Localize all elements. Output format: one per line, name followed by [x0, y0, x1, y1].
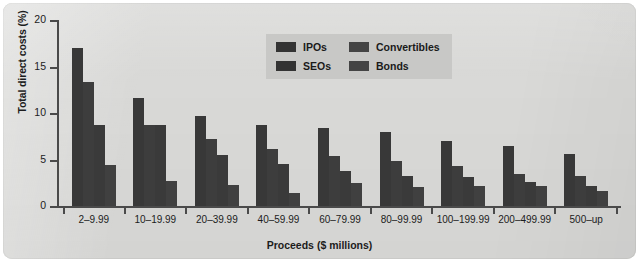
bar-group: 100–199.99 [441, 141, 485, 206]
bar-group: 500–up [564, 154, 608, 206]
bar [318, 128, 329, 206]
bar [217, 155, 228, 206]
x-tick-label: 2–9.99 [78, 214, 109, 225]
x-tick [431, 208, 433, 214]
bar [536, 186, 547, 206]
y-tick-label-20: 20 [34, 13, 46, 25]
legend-item-seos: SEOs [276, 60, 331, 72]
legend-swatch-convertibles [349, 42, 369, 52]
bar [474, 186, 485, 206]
x-tick [124, 208, 126, 214]
bar [83, 82, 94, 206]
x-tick [616, 208, 618, 214]
x-tick-label: 100–199.99 [437, 214, 490, 225]
bar [575, 176, 586, 206]
x-axis-title: Proceeds ($ millions) [0, 239, 639, 251]
y-tick-label-5: 5 [40, 153, 46, 165]
bar [597, 191, 608, 206]
x-tick-label: 200–499.99 [498, 214, 551, 225]
bar-group: 10–19.99 [133, 98, 177, 206]
bar [278, 164, 289, 206]
bar [503, 146, 514, 206]
bar [267, 149, 278, 206]
y-tick-0: 0 [50, 206, 57, 208]
bar [72, 48, 83, 206]
bar [329, 156, 340, 206]
bar [155, 125, 166, 206]
bar [195, 116, 206, 206]
legend-swatch-ipos [276, 42, 296, 52]
x-tick [370, 208, 372, 214]
chart-legend: IPOs Convertibles SEOs Bonds [266, 34, 452, 79]
legend-label-seos: SEOs [303, 60, 331, 72]
bar [413, 187, 424, 206]
bar [514, 174, 525, 206]
bar [256, 125, 267, 206]
x-tick-label: 60–79.99 [319, 214, 361, 225]
x-tick [247, 208, 249, 214]
legend-swatch-seos [276, 61, 296, 71]
legend-item-ipos: IPOs [276, 41, 331, 53]
bar-group: 2–9.99 [72, 48, 116, 206]
bar [206, 139, 217, 206]
bar [105, 165, 116, 206]
x-tick-label: 40–59.99 [258, 214, 300, 225]
x-tick [554, 208, 556, 214]
legend-item-convertibles: Convertibles [349, 41, 440, 53]
y-tick-10: 10 [50, 113, 57, 115]
y-tick-label-10: 10 [34, 106, 46, 118]
x-tick-label: 10–19.99 [134, 214, 176, 225]
bar-group: 60–79.99 [318, 128, 362, 206]
bar [525, 182, 536, 206]
y-tick-20: 20 [50, 20, 57, 22]
bar [351, 183, 362, 206]
bar-group: 40–59.99 [256, 125, 300, 206]
x-tick [308, 208, 310, 214]
legend-swatch-bonds [349, 61, 369, 71]
bar-group: 20–39.99 [195, 116, 239, 206]
y-axis-title: Total direct costs (%) [16, 0, 28, 127]
y-tick-5: 5 [50, 160, 57, 162]
y-axis-line [57, 20, 59, 208]
y-tick-label-15: 15 [34, 60, 46, 72]
bar [441, 141, 452, 206]
bar-group: 200–499.99 [503, 146, 547, 206]
x-tick [185, 208, 187, 214]
x-tick-label: 80–99.99 [381, 214, 423, 225]
bar [564, 154, 575, 206]
legend-item-bonds: Bonds [349, 60, 440, 72]
bar [402, 176, 413, 206]
bar [166, 181, 177, 206]
x-tick-label: 20–39.99 [196, 214, 238, 225]
bar [391, 161, 402, 206]
y-tick-15: 15 [50, 67, 57, 69]
x-tick-label: 500–up [570, 214, 603, 225]
bar [289, 193, 300, 206]
x-axis-line [57, 206, 621, 208]
bar [133, 98, 144, 206]
legend-label-ipos: IPOs [303, 41, 327, 53]
x-tick [63, 208, 65, 214]
bar [452, 166, 463, 206]
y-tick-label-0: 0 [40, 199, 46, 211]
bar [380, 132, 391, 206]
legend-label-convertibles: Convertibles [376, 41, 440, 53]
bar [144, 125, 155, 206]
x-tick [493, 208, 495, 214]
chart-figure: Total direct costs (%) Proceeds ($ milli… [0, 0, 639, 262]
legend-label-bonds: Bonds [376, 60, 409, 72]
bar [94, 125, 105, 206]
bar [228, 185, 239, 206]
bar-group: 80–99.99 [380, 132, 424, 206]
bar [586, 186, 597, 206]
bar [340, 171, 351, 206]
bar [463, 177, 474, 206]
